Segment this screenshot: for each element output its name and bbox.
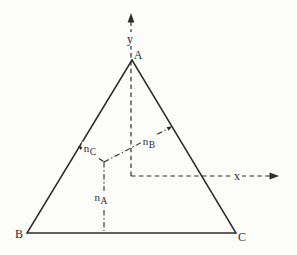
y-axis-arrow-icon [128,13,135,23]
normal-b-arrow-icon [167,127,172,131]
normal-a-label-base: n [95,191,101,203]
normal-c-label-sub: C [90,147,96,157]
normal-c-label-base: n [84,142,90,154]
diagram-canvas [0,0,297,255]
normal-b-label-base: n [143,135,149,147]
ternary-triangle-diagram: A B C y x nA nB nC [0,0,297,255]
normal-a-label-sub: A [101,196,108,206]
normal-c-label: nC [82,142,98,159]
normal-b-label-sub: B [149,140,155,150]
normal-b-line [104,129,168,162]
vertex-c-label: C [238,231,246,243]
x-axis-arrow-icon [270,173,280,180]
normal-a-label: nA [93,191,110,208]
normal-b-label: nB [141,135,157,152]
vertex-a-label: A [134,49,143,61]
x-axis-label: x [232,169,242,183]
vertex-b-label: B [15,228,23,240]
y-axis-label: y [125,32,135,46]
